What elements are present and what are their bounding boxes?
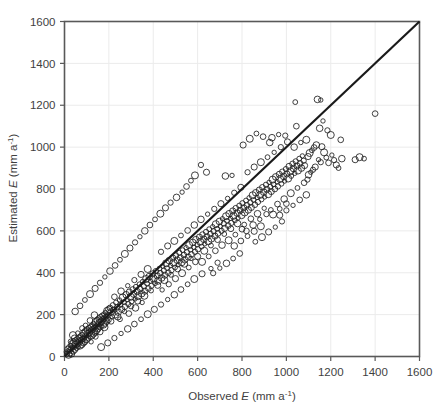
- x-tick-label: 600: [188, 366, 207, 378]
- x-tick-label: 1000: [274, 366, 300, 378]
- x-tick-label: 1400: [362, 366, 388, 378]
- x-tick-label: 1200: [318, 366, 344, 378]
- y-tick-label: 600: [36, 225, 55, 237]
- x-tick-label: 400: [144, 366, 163, 378]
- axis-title-unit-close: ): [292, 390, 296, 402]
- y-tick-label: 1000: [30, 141, 56, 153]
- axis-title-prefix: Estimated: [7, 188, 19, 242]
- x-tick-labels: 02004006008001000120014001600: [61, 366, 432, 378]
- y-tick-label: 200: [36, 309, 55, 321]
- x-axis-title: Observed E (mm a-1): [188, 389, 296, 403]
- y-axis-title: Estimated E (mm a-1): [6, 133, 20, 242]
- y-tick-label: 400: [36, 267, 55, 279]
- y-tick-label: 800: [36, 183, 55, 195]
- x-tick-label: 800: [232, 366, 251, 378]
- axis-title-unit-open: (mm a: [249, 390, 285, 402]
- x-tick-label: 200: [99, 366, 118, 378]
- scatter-plot-svg: 02004006008001000120014001600 0200400600…: [0, 0, 442, 413]
- y-tick-label: 1600: [30, 16, 56, 28]
- x-tick-label: 1600: [407, 366, 433, 378]
- axis-title-unit-close: ): [7, 133, 19, 137]
- axis-title-prefix: Observed: [188, 390, 241, 402]
- y-tick-label: 1200: [30, 99, 56, 111]
- scatter-chart-figure: 02004006008001000120014001600 0200400600…: [0, 0, 442, 413]
- axis-title-unit-open: (mm a: [7, 144, 19, 180]
- y-tick-label: 1400: [30, 58, 56, 70]
- x-tick-label: 0: [61, 366, 67, 378]
- y-tick-label: 0: [49, 351, 55, 363]
